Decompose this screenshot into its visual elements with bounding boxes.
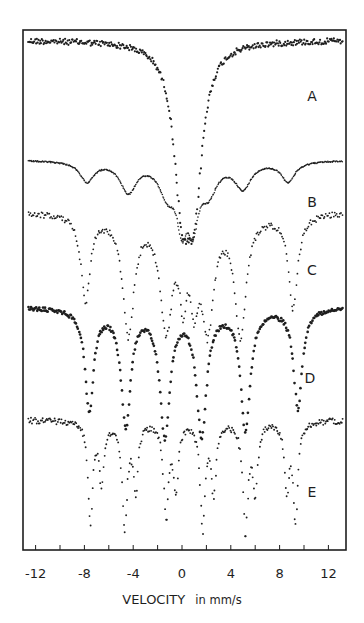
x-axis-title-main: VELOCITY <box>122 592 185 607</box>
x-tick-label: -12 <box>25 566 46 581</box>
x-tick-label: 4 <box>227 566 235 581</box>
x-tick-label: 12 <box>320 566 337 581</box>
x-tick-label: 8 <box>275 566 283 581</box>
x-tick-label: 0 <box>178 566 186 581</box>
spectrum-label-c: C <box>307 262 317 278</box>
spectrum-label-a: A <box>307 88 317 104</box>
x-tick-label: -4 <box>127 566 140 581</box>
x-axis-title-unit: in mm/s <box>195 593 241 607</box>
spectrum-a <box>27 37 344 245</box>
plot-frame <box>23 30 346 550</box>
spectrum-b <box>27 160 343 244</box>
spectrum-e <box>27 417 343 537</box>
x-tick-label: -8 <box>78 566 91 581</box>
spectrum-label-b: B <box>307 194 317 210</box>
x-axis-title: VELOCITY in mm/s <box>122 592 241 607</box>
x-axis-tick-labels: -12-8-404812 <box>25 566 337 581</box>
mossbauer-spectra-figure: -12-8-404812 ABCDE VELOCITY in mm/s <box>0 0 364 623</box>
spectra-curves <box>27 37 344 537</box>
spectrum-label-e: E <box>308 484 317 500</box>
spectrum-label-d: D <box>305 370 316 386</box>
spectrum-labels: ABCDE <box>305 88 318 500</box>
